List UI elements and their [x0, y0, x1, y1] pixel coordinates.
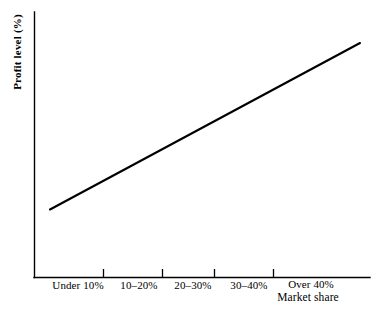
chart-figure: Profit level (%) Under 10% 10–20% 20–30%…	[0, 0, 376, 325]
chart-plot-area	[0, 0, 376, 325]
data-line-profit-level	[50, 43, 360, 210]
y-axis-title: Profit level (%)	[11, 2, 23, 102]
x-tick-label-over-40: Over 40%	[266, 278, 356, 291]
x-axis-title: Market share	[252, 291, 364, 303]
